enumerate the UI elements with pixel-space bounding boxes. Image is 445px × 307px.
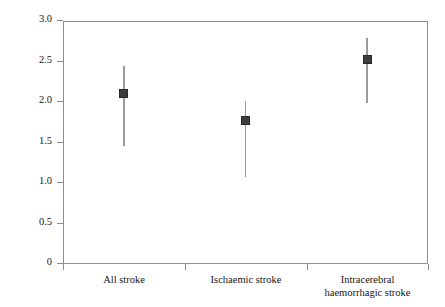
point-estimate-marker xyxy=(119,89,128,98)
y-axis-tick-label: 2.5 xyxy=(0,54,52,65)
y-axis-tick-label: 3.0 xyxy=(0,13,52,24)
y-axis-tick-label: 1.5 xyxy=(0,135,52,146)
confidence-interval-bar xyxy=(366,38,368,103)
x-axis-label-line1: Ischaemic stroke xyxy=(185,273,307,286)
y-axis-tick-label: 0.5 xyxy=(0,216,52,227)
x-axis-label-intracerebral-haemorrhagic-stroke: Intracerebral haemorrhagic stroke xyxy=(307,273,428,299)
x-axis-label-all-stroke: All stroke xyxy=(63,273,185,286)
confidence-interval-bar xyxy=(123,66,125,145)
y-axis-tick-mark xyxy=(57,20,63,21)
x-axis-separator xyxy=(428,264,429,270)
y-axis-tick-mark xyxy=(57,101,63,102)
y-axis-tick-mark xyxy=(57,223,63,224)
x-axis-separator xyxy=(63,264,64,270)
y-axis-tick-mark xyxy=(57,61,63,62)
odds-ratio-chart: Odds ratio for smoking (99% CI) 3.02.52.… xyxy=(0,0,445,307)
y-axis-tick-label: 2.0 xyxy=(0,94,52,105)
x-axis-label-line2: haemorrhagic stroke xyxy=(307,286,428,299)
y-axis-tick-mark xyxy=(57,182,63,183)
point-estimate-marker xyxy=(241,116,250,125)
y-axis-tick-label: 1.0 xyxy=(0,175,52,186)
x-axis-label-line1: Intracerebral xyxy=(307,273,428,286)
x-axis-separator xyxy=(307,264,308,270)
x-axis-label-ischaemic-stroke: Ischaemic stroke xyxy=(185,273,307,286)
x-axis-label-line1: All stroke xyxy=(63,273,185,286)
point-estimate-marker xyxy=(363,55,372,64)
confidence-interval-bar xyxy=(245,101,247,177)
x-axis-separator xyxy=(185,264,186,270)
y-axis-tick-mark xyxy=(57,142,63,143)
y-axis-tick-label: 0 xyxy=(0,256,52,267)
